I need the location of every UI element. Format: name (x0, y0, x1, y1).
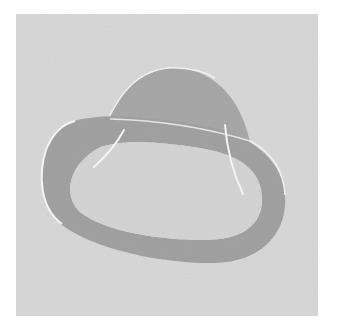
hat-illustration (0, 0, 337, 327)
